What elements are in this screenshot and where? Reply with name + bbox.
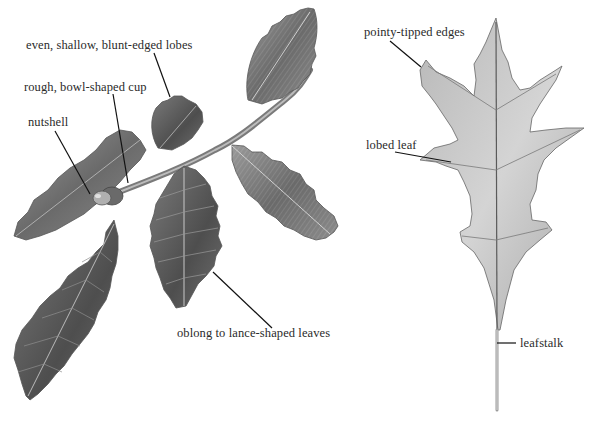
leader-lobes bbox=[154, 53, 170, 97]
label-lobed: lobed leaf bbox=[366, 138, 417, 152]
leader-edges bbox=[390, 41, 421, 67]
label-cup: rough, bowl-shaped cup bbox=[24, 80, 147, 94]
acorn-nutshell bbox=[93, 191, 111, 205]
label-nutshell: nutshell bbox=[28, 115, 68, 129]
oak-leaf-upper-left bbox=[14, 130, 146, 240]
oak-leaf-top bbox=[247, 8, 317, 104]
label-leafstalk: leafstalk bbox=[520, 336, 563, 350]
label-lobes: even, shallow, blunt-edged lobes bbox=[26, 38, 193, 52]
oak-leaf-right bbox=[232, 145, 338, 240]
label-leaves: oblong to lance-shaped leaves bbox=[177, 326, 330, 340]
oak-leaf-lower-left bbox=[14, 220, 118, 400]
botanical-illustration: even, shallow, blunt-edged lobes rough, … bbox=[0, 0, 598, 423]
oak-branch bbox=[14, 8, 338, 400]
leader-leaves bbox=[213, 272, 272, 328]
oak-leaf-center bbox=[150, 166, 222, 308]
illustration-canvas bbox=[0, 0, 598, 423]
label-edges: pointy-tipped edges bbox=[364, 25, 465, 39]
oak-leaf-small bbox=[152, 96, 203, 150]
spiky-oak-leaf bbox=[420, 18, 584, 410]
